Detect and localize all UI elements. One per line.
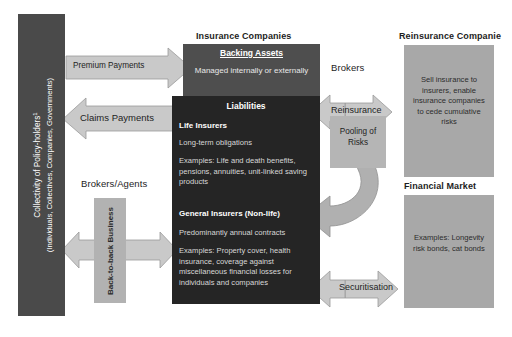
brokers-heading: Brokers: [331, 62, 364, 73]
general-insurers-examples: Examples: Property cover, health insuran…: [179, 246, 315, 288]
claims-payments-label: Claims Payments: [80, 112, 154, 123]
financial-market-body: Examples: Longevity risk bonds, cat bond…: [409, 233, 489, 254]
general-insurers-line1: Predominantly annual contracts: [179, 228, 315, 239]
insurance-companies-heading: Insurance Companies: [196, 31, 291, 41]
reinsurance-companies-box: Sell insurance to insurers, enable insur…: [404, 45, 494, 177]
back-to-back-business-box: Back-to-back Business: [94, 198, 126, 303]
reinsurance-companies-heading: Reinsurance Companie: [399, 31, 501, 41]
backing-assets-title: Backing Assets: [183, 48, 320, 58]
reinsurance-label: Reinsurance: [331, 105, 382, 115]
policyholders-box: Collectivity of Policy-holders1 (Individ…: [18, 14, 65, 316]
liabilities-box: Liabilities Life Insurers Long-term obli…: [172, 96, 320, 304]
policyholders-footnote-marker: 1: [31, 112, 37, 115]
pooling-of-risks-label: Pooling of Risks: [332, 126, 384, 148]
policyholders-label: Collectivity of Policy-holders1 (Individ…: [29, 15, 54, 315]
policyholders-line1: Collectivity of Policy-holders: [33, 116, 42, 218]
life-insurers-line1: Long-term obligations: [179, 138, 315, 149]
liabilities-title: Liabilities: [172, 101, 320, 111]
premium-payments-label: Premium Payments: [73, 61, 144, 70]
general-insurers-title: General Insurers (Non-life): [179, 209, 280, 218]
backing-assets-body: Managed internally or externally: [189, 65, 314, 76]
life-insurers-title: Life Insurers: [179, 121, 227, 130]
financial-market-heading: Financial Market: [404, 181, 476, 191]
financial-market-box: Examples: Longevity risk bonds, cat bond…: [404, 195, 494, 308]
back-to-back-right-arrow: [124, 232, 177, 268]
securitisation-label: Securitisation: [339, 282, 393, 292]
reinsurance-companies-body: Sell insurance to insurers, enable insur…: [410, 75, 488, 128]
brokers-agents-heading: Brokers/Agents: [81, 178, 147, 189]
insurance-value-chain-diagram: .ar { fill:#c9c9c9; stroke:#9a9a9a; stro…: [0, 0, 512, 337]
life-insurers-examples: Examples: Life and death benefits, pensi…: [179, 156, 315, 188]
back-to-back-business-label: Back-to-back Business: [106, 198, 115, 303]
back-to-back-left-arrow: [62, 232, 96, 268]
policyholders-line2: (Individuals, Collectives, Companies, Go…: [44, 78, 53, 252]
pooling-of-risks-box: Pooling of Risks: [330, 116, 386, 168]
